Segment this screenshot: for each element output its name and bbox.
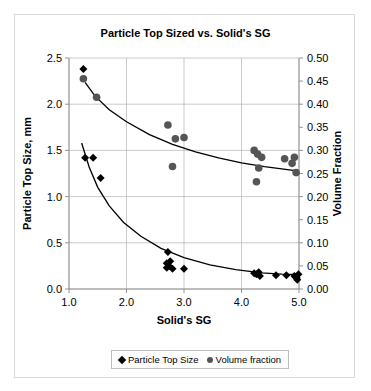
data-point-circle xyxy=(93,93,101,101)
legend-item-particle-top-size: Particle Top Size xyxy=(119,354,199,365)
data-point-diamond xyxy=(164,248,172,256)
svg-text:3.0: 3.0 xyxy=(176,296,191,308)
data-point-diamond xyxy=(282,271,290,279)
data-point-diamond xyxy=(97,174,105,182)
svg-text:0.50: 0.50 xyxy=(307,52,328,64)
data-point-circle xyxy=(292,169,300,177)
svg-text:0.45: 0.45 xyxy=(307,75,328,87)
legend-label: Particle Top Size xyxy=(128,354,199,365)
svg-text:5.0: 5.0 xyxy=(291,296,306,308)
trend-lines xyxy=(82,82,299,274)
svg-text:1.0: 1.0 xyxy=(47,191,62,203)
data-point-circle xyxy=(258,154,266,162)
svg-text:0.00: 0.00 xyxy=(307,283,328,295)
svg-text:1.0: 1.0 xyxy=(61,296,76,308)
volume-fraction-trend xyxy=(85,82,299,171)
svg-text:2.0: 2.0 xyxy=(119,296,134,308)
particle-top-size-trend xyxy=(82,143,299,275)
diamond-marker-icon xyxy=(118,355,126,363)
svg-text:Particle Top Size, mm: Particle Top Size, mm xyxy=(21,117,33,230)
data-point-diamond xyxy=(180,265,188,273)
chart-legend: Particle Top Size Volume fraction xyxy=(111,350,289,369)
svg-text:0.20: 0.20 xyxy=(307,191,328,203)
chart-frame: Particle Top Sized vs. Solid's SG 0.00.5… xyxy=(14,14,355,378)
svg-text:Volume Fraction: Volume Fraction xyxy=(331,131,343,217)
svg-text:0.40: 0.40 xyxy=(307,98,328,110)
chart-plot-area: 0.00.51.01.52.02.50.000.050.100.150.200.… xyxy=(15,15,356,379)
data-point-circle xyxy=(288,160,296,168)
data-point-circle xyxy=(172,135,180,143)
svg-text:1.5: 1.5 xyxy=(47,144,62,156)
svg-text:0.30: 0.30 xyxy=(307,144,328,156)
data-point-circle xyxy=(255,164,263,172)
svg-text:0.5: 0.5 xyxy=(47,237,62,249)
svg-text:0.15: 0.15 xyxy=(307,214,328,226)
data-point-circle xyxy=(169,163,177,171)
data-point-circle xyxy=(80,75,88,83)
data-point-circle xyxy=(281,155,289,163)
circle-marker-icon xyxy=(207,357,213,363)
svg-text:0.05: 0.05 xyxy=(307,260,328,272)
data-point-circle xyxy=(253,178,261,186)
data-point-diamond xyxy=(81,154,89,162)
svg-text:0.0: 0.0 xyxy=(47,283,62,295)
data-point-circle xyxy=(164,121,172,129)
data-points xyxy=(79,65,302,284)
data-point-diamond xyxy=(79,65,87,73)
svg-text:2.5: 2.5 xyxy=(47,52,62,64)
svg-text:0.25: 0.25 xyxy=(307,168,328,180)
gridlines xyxy=(69,58,299,289)
svg-text:Solid's SG: Solid's SG xyxy=(157,314,212,326)
axis-tick-labels: 0.00.51.01.52.02.50.000.050.100.150.200.… xyxy=(47,52,329,308)
svg-text:0.10: 0.10 xyxy=(307,237,328,249)
svg-text:2.0: 2.0 xyxy=(47,98,62,110)
legend-label: Volume fraction xyxy=(216,354,281,365)
data-point-circle xyxy=(180,134,188,142)
data-point-diamond xyxy=(89,154,97,162)
data-point-diamond xyxy=(272,271,280,279)
svg-text:0.35: 0.35 xyxy=(307,121,328,133)
legend-item-volume-fraction: Volume fraction xyxy=(207,354,281,365)
svg-text:4.0: 4.0 xyxy=(234,296,249,308)
